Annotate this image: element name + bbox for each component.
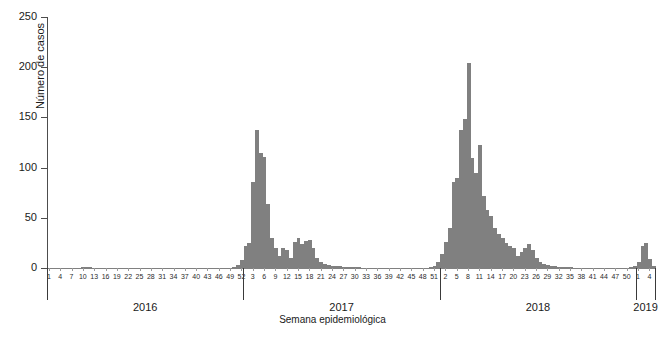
x-axis-tick-labels: 1471013161922252831343740434649523691215… (47, 272, 655, 284)
x-axis-tick-label: 4 (639, 272, 659, 281)
x-axis-tick-mark (332, 268, 333, 271)
x-axis-tick-mark (570, 268, 571, 271)
y-axis-tick-label: 200 (7, 61, 37, 72)
x-axis-tick-mark (593, 268, 594, 271)
x-axis-tick-mark (547, 268, 548, 271)
x-axis-tick-mark (649, 268, 650, 271)
x-axis-tick-mark (128, 268, 129, 271)
x-axis-tick-mark (559, 268, 560, 271)
year-separator (636, 268, 637, 300)
x-axis-tick-mark (94, 268, 95, 271)
x-axis-tick-mark (502, 268, 503, 271)
x-axis-tick-mark (264, 268, 265, 271)
x-axis-tick-mark (627, 268, 628, 271)
year-separator (440, 268, 441, 300)
x-axis-tick-mark (49, 268, 50, 271)
x-axis-tick-mark (457, 268, 458, 271)
x-axis-tick-mark (241, 268, 242, 271)
bar-series (47, 17, 655, 268)
year-label: 2017 (282, 300, 402, 314)
x-axis-tick-mark (638, 268, 639, 271)
x-axis-tick-mark (321, 268, 322, 271)
x-axis-tick-mark (491, 268, 492, 271)
x-axis-tick-mark (60, 268, 61, 271)
x-axis-tick-mark (185, 268, 186, 271)
x-axis-tick-mark (434, 268, 435, 271)
year-label: 2019 (586, 300, 665, 314)
x-axis-tick-mark (117, 268, 118, 271)
x-axis-tick-mark (400, 268, 401, 271)
x-axis-tick-mark (581, 268, 582, 271)
x-axis-tick-mark (196, 268, 197, 271)
x-axis-tick-mark (72, 268, 73, 271)
x-axis-tick-mark (389, 268, 390, 271)
y-axis-tick-label: 150 (7, 111, 37, 122)
year-label: 2016 (85, 300, 205, 314)
plot-area (47, 17, 655, 268)
x-axis-tick-mark (275, 268, 276, 271)
x-axis-tick-mark (513, 268, 514, 271)
x-axis-tick-mark (230, 268, 231, 271)
x-axis-tick-mark (219, 268, 220, 271)
x-axis-tick-mark (604, 268, 605, 271)
x-axis-tick-mark (140, 268, 141, 271)
y-axis-tick-label: 0 (7, 262, 37, 273)
x-axis-title: Semana epidemiológica (0, 314, 665, 325)
x-axis-tick-mark (343, 268, 344, 271)
y-axis-tick-label: 50 (7, 212, 37, 223)
year-separator (243, 268, 244, 300)
y-axis-tick-label: 100 (7, 162, 37, 173)
epidemic-curve-chart: Número de casos 050100150200250 14710131… (0, 0, 665, 337)
x-axis-tick-mark (525, 268, 526, 271)
x-axis-tick-mark (366, 268, 367, 271)
x-axis-tick-mark (207, 268, 208, 271)
y-axis-tick-label: 250 (7, 11, 37, 22)
x-axis-tick-mark (536, 268, 537, 271)
x-axis-tick-mark (445, 268, 446, 271)
x-axis-tick-mark (377, 268, 378, 271)
x-axis-tick-mark (309, 268, 310, 271)
x-axis-tick-mark (615, 268, 616, 271)
x-axis-tick-mark (174, 268, 175, 271)
x-axis-tick-mark (355, 268, 356, 271)
year-separator (47, 268, 48, 300)
x-axis-tick-mark (479, 268, 480, 271)
x-axis-tick-mark (423, 268, 424, 271)
x-axis-tick-mark (298, 268, 299, 271)
year-label: 2018 (478, 300, 598, 314)
x-axis-tick-mark (253, 268, 254, 271)
x-axis-tick-mark (83, 268, 84, 271)
x-axis-tick-mark (151, 268, 152, 271)
y-axis-tick-labels: 050100150200250 (4, 0, 37, 337)
x-axis-tick-mark (106, 268, 107, 271)
x-axis-tick-mark (287, 268, 288, 271)
x-axis-tick-mark (411, 268, 412, 271)
year-separator (655, 268, 656, 300)
x-axis-tick-mark (162, 268, 163, 271)
x-axis-tick-mark (468, 268, 469, 271)
